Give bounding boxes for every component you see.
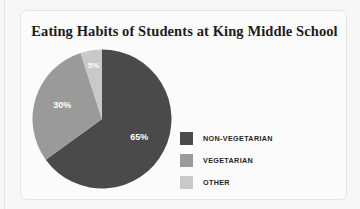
legend-swatch-other (180, 176, 193, 189)
chart-card: Eating Habits of Students at King Middle… (20, 10, 347, 200)
legend-label-non-vegetarian: NON-VEGETARIAN (203, 134, 273, 143)
chart-title: Eating Habits of Students at King Middle… (21, 23, 347, 40)
pie-chart: 65% 30% 5% (32, 49, 172, 189)
pie-label-non-vegetarian: 65% (130, 132, 148, 142)
pie-label-vegetarian: 30% (53, 100, 71, 110)
pie-slices (32, 50, 171, 189)
legend-label-other: OTHER (203, 178, 230, 187)
chart-legend: NON-VEGETARIAN VEGETARIAN OTHER (180, 131, 340, 197)
legend-item-other[interactable]: OTHER (180, 175, 340, 189)
legend-item-vegetarian[interactable]: VEGETARIAN (180, 153, 340, 167)
legend-item-non-vegetarian[interactable]: NON-VEGETARIAN (180, 131, 340, 145)
legend-swatch-non-vegetarian (180, 132, 193, 145)
legend-label-vegetarian: VEGETARIAN (203, 156, 253, 165)
pie-label-other: 5% (88, 61, 100, 70)
legend-swatch-vegetarian (180, 154, 193, 167)
pie-chart-svg: 65% 30% 5% (32, 49, 172, 189)
page-gutter-line (4, 0, 5, 209)
